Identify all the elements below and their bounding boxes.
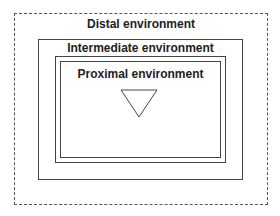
- proximal-environment-label: Proximal environment: [60, 67, 221, 81]
- distal-environment-label: Distal environment: [14, 17, 268, 31]
- intermediate-environment-label: Intermediate environment: [38, 41, 243, 55]
- inverted-triangle-icon: [120, 88, 160, 120]
